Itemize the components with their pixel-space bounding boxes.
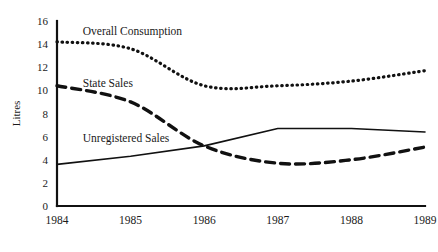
series-label-overall-consumption: Overall Consumption	[83, 25, 183, 38]
y-tick-label: 16	[37, 15, 49, 27]
series-line-state-sales	[57, 86, 425, 164]
series-label-unregistered-sales: Unregistered Sales	[83, 132, 170, 145]
x-tick-label: 1987	[266, 214, 289, 226]
y-tick-label: 14	[37, 38, 49, 50]
y-tick-label: 2	[43, 177, 49, 189]
axis-lines	[57, 21, 425, 206]
y-axis-title-group: Litres	[10, 101, 22, 127]
series-label-state-sales: State Sales	[83, 77, 134, 89]
x-tick-label: 1984	[46, 214, 69, 226]
y-tick-label: 8	[43, 108, 49, 120]
y-tick-label: 4	[43, 154, 49, 166]
x-tick-labels: 198419851986198719881989	[46, 214, 437, 226]
y-axis-title: Litres	[10, 101, 22, 127]
x-tick-label: 1989	[414, 214, 437, 226]
series-paths	[57, 42, 425, 165]
x-tick-label: 1985	[119, 214, 142, 226]
y-tick-label: 10	[37, 84, 49, 96]
x-tick-label: 1986	[193, 214, 216, 226]
line-chart-figure: 0246810121416 198419851986198719881989 L…	[0, 0, 438, 252]
x-tick-label: 1988	[340, 214, 363, 226]
y-tick-labels: 0246810121416	[37, 15, 49, 212]
y-tick-label: 0	[43, 200, 49, 212]
y-tick-label: 6	[43, 131, 49, 143]
chart-plot-area: 0246810121416 198419851986198719881989 L…	[0, 0, 438, 252]
y-tick-label: 12	[37, 61, 48, 73]
